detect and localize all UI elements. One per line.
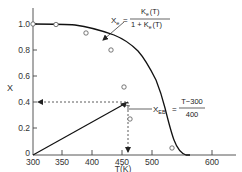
x-tick-label: 300	[26, 157, 40, 167]
equilibrium-curve	[33, 24, 190, 155]
y-tick-label: 0.8	[18, 45, 30, 55]
svg-text:400: 400	[186, 110, 199, 119]
x-ticks	[62, 150, 212, 155]
energy-balance-line	[33, 102, 128, 155]
data-points	[31, 22, 174, 150]
y-tick-label: 0.4	[18, 97, 30, 107]
svg-text:1 + Ke(T): 1 + Ke(T)	[131, 20, 163, 30]
y-ticks	[33, 24, 37, 128]
x-tick-label: 600	[205, 157, 219, 167]
svg-text:T−300: T−300	[181, 97, 202, 106]
x-tick-label: 350	[55, 157, 69, 167]
svg-text:Xe: Xe	[111, 16, 119, 26]
y-axis-label: X	[7, 83, 13, 93]
y-tick-label: 0.6	[18, 71, 30, 81]
y-tick-label: 0.2	[18, 123, 30, 133]
equation-equilibrium: Xe = Ke(T) 1 + Ke(T)	[111, 7, 170, 30]
y-tick-label: 1.0	[18, 19, 30, 29]
x-axis-label: T(K)	[115, 164, 132, 172]
x-tick-label: 400	[85, 157, 99, 167]
x-tick-label: 500	[145, 157, 159, 167]
equation-energy-balance: XEB = T−300 400	[153, 97, 205, 119]
svg-text:=: =	[172, 105, 177, 114]
conversion-temperature-chart: 1.0 0.8 0.6 0.4 0.2 0 300 350 400 450 50…	[0, 0, 242, 172]
svg-text:=: =	[123, 16, 128, 25]
svg-text:Ke(T): Ke(T)	[141, 7, 160, 17]
